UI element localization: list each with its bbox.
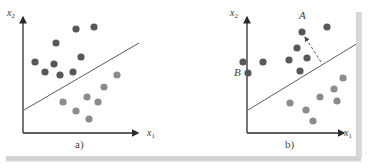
panel-b-y-axis-label: x2 [230, 7, 238, 20]
scatter-figure-container: x2 x1 a) x2 x1 b) A B [0, 0, 373, 168]
panel-a [23, 17, 139, 133]
classification-boundary-figure [0, 0, 373, 168]
panel-b-x-axis-label: x1 [344, 127, 352, 140]
panel-b-point-label-a: A [299, 9, 306, 21]
page-shadow-right [356, 12, 362, 158]
panel-a-x-axis-label: x1 [147, 127, 155, 140]
panel-a-class1-points [31, 23, 97, 78]
panel-a-decision-boundary [24, 43, 139, 110]
panel-b-point-label-b: B [234, 66, 241, 78]
panel-a-class2-points [59, 71, 120, 122]
page-shadow-bottom [6, 156, 361, 162]
panel-b-class1-points [239, 23, 330, 76]
panel-a-caption: a) [75, 138, 84, 150]
panel-a-y-axis-label: x2 [7, 7, 15, 20]
panel-b-caption: b) [285, 138, 294, 150]
panel-b [239, 17, 358, 133]
panel-b-class2-points [286, 74, 346, 124]
